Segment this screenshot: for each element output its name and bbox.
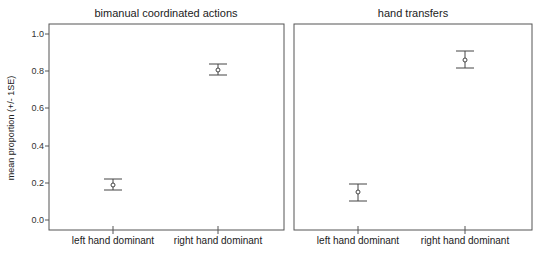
panel-title: bimanual coordinated actions [94,7,238,19]
error-bar-points [104,64,227,190]
y-tick-label: 0.8 [31,66,44,76]
y-tick-label: 1.0 [31,29,44,39]
y-axis [45,34,49,220]
error-bar-points [349,51,474,201]
panel-title: hand transfers [378,7,449,19]
y-axis-label: mean proportion (+/- 1SE) [6,76,16,180]
x-category-label: right hand dominant [421,235,510,246]
x-category-label: left hand dominant [72,235,155,246]
y-tick-label: 0.2 [31,178,44,188]
plot-frame [49,24,284,230]
x-category-label: right hand dominant [174,235,263,246]
y-tick-label: 0.0 [31,215,44,225]
chart-figure: mean proportion (+/- 1SE) bimanual coord… [0,0,541,256]
plot-frame [294,24,532,230]
y-tick-label: 0.4 [31,141,44,151]
panel-bimanual: bimanual coordinated actions 0.0 0.2 0.4… [31,7,284,246]
y-tick-label: 0.6 [31,103,44,113]
x-category-label: left hand dominant [317,235,400,246]
panel-hand-transfers: hand transfers left hand dominant right … [294,7,532,246]
